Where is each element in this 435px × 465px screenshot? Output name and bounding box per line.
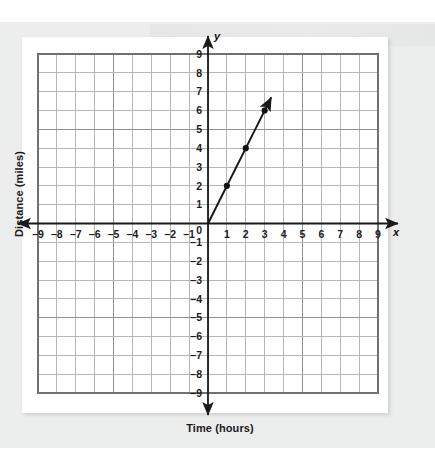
y-tick-label: –5 [190, 311, 202, 323]
x-tick-label: –9 [32, 228, 44, 240]
y-tick-label: 9 [196, 48, 202, 60]
x-tick-label: 1 [224, 228, 230, 240]
y-tick-label: –4 [190, 293, 202, 305]
y-tick-label: 1 [196, 198, 202, 210]
y-tick-label: 7 [196, 85, 202, 97]
y-tick-label: –2 [190, 255, 202, 267]
origin-label: 0 [196, 224, 202, 236]
y-tick-label: 8 [196, 67, 202, 79]
x-tick-label: 8 [356, 228, 362, 240]
y-tick-label: –6 [190, 330, 202, 342]
y-tick-label: 6 [196, 104, 202, 116]
x-tick-label: –5 [108, 228, 120, 240]
coordinate-plane: xy –9–8–7–6–5–4–3–2–1123456789–9–8–7–6–5… [0, 0, 435, 465]
x-tick-label: 3 [262, 228, 268, 240]
y-tick-label: 2 [196, 180, 202, 192]
y-tick-label: 5 [196, 123, 202, 135]
x-tick-label: 2 [243, 228, 249, 240]
x-tick-label: –6 [89, 228, 101, 240]
y-axis-letter: y [213, 30, 221, 42]
x-tick-label: –4 [127, 228, 139, 240]
x-tick-label: –2 [164, 228, 176, 240]
y-tick-label: 4 [196, 142, 202, 154]
page-root: Distance (miles) Time (hours) xy –9–8–7–… [0, 0, 435, 465]
x-axis-letter: x [392, 226, 400, 238]
x-tick-label: –8 [51, 228, 63, 240]
x-tick-label: 4 [281, 228, 287, 240]
y-tick-label: –1 [190, 236, 202, 248]
x-tick-label: –3 [145, 228, 157, 240]
y-tick-label: –9 [190, 387, 202, 399]
x-tick-label: 7 [337, 228, 343, 240]
x-tick-label: –7 [70, 228, 82, 240]
data-point [262, 107, 268, 113]
data-point [224, 183, 230, 189]
y-tick-label: –8 [190, 368, 202, 380]
x-tick-label: 5 [300, 228, 306, 240]
x-tick-label: 6 [318, 228, 324, 240]
data-point [243, 145, 249, 151]
y-tick-label: –7 [190, 349, 202, 361]
y-tick-label: 3 [196, 161, 202, 173]
y-tick-label: –3 [190, 274, 202, 286]
x-tick-label: 9 [375, 228, 381, 240]
